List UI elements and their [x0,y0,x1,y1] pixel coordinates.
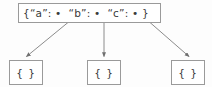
leaf-object-a-label: { } [16,67,36,79]
leaf-object-c-label: { } [178,67,198,79]
diagram-canvas: {“a”: • “b”: • “c”: • } { } { } { } [0,0,212,87]
leaf-object-b: { } [87,60,121,85]
leaf-object-b-label: { } [94,67,114,79]
root-json-object-label: {“a”: • “b”: • “c”: • } [23,7,149,19]
edge-a-arrow [27,20,72,57]
edge-c-arrow [146,19,189,57]
root-json-object: {“a”: • “b”: • “c”: • } [18,3,161,23]
leaf-object-c: { } [171,60,205,85]
leaf-object-a: { } [9,60,43,85]
